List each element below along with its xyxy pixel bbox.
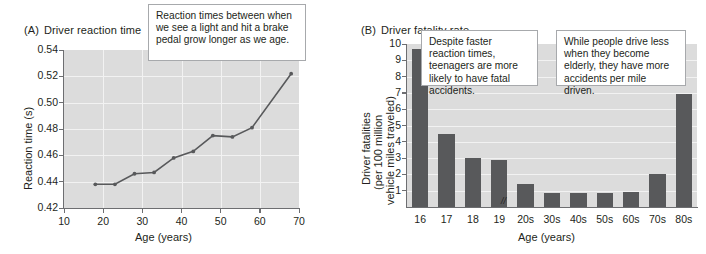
data-point-marker: [250, 126, 254, 130]
panel-a-driver-reaction-time: (A)Driver reaction time 0.420.440.460.48…: [0, 0, 353, 254]
panel-b-y-axis-title-line1: Driver fatalities: [360, 112, 372, 185]
data-point-marker: [133, 172, 137, 176]
panel-b-y-axis-title-line2: (per 100 million: [372, 115, 384, 190]
reaction-time-line: [95, 74, 291, 185]
panel-b-y-axis-title-line3: vehicle miles traveled): [384, 96, 396, 205]
y-tick-mark: [402, 76, 407, 77]
y-tick-mark: [402, 190, 407, 191]
panel-b-x-axis-title: Age (years): [518, 231, 575, 243]
bar: [676, 94, 692, 207]
y-tick-mark: [402, 109, 407, 110]
y-tick-label: 9: [367, 53, 401, 65]
figure-root: (A)Driver reaction time 0.420.440.460.48…: [0, 0, 706, 254]
bar: [465, 158, 481, 207]
y-tick-mark: [402, 141, 407, 142]
axis-break-icon: //: [501, 196, 506, 206]
panel-a-callout: Reaction times between when we see a lig…: [148, 4, 306, 61]
data-point-marker: [289, 72, 293, 76]
bar: [517, 184, 533, 207]
panel-b-tag: (B): [361, 24, 376, 36]
y-tick-mark: [402, 158, 407, 159]
bar: [570, 193, 586, 207]
y-tick-mark: [402, 44, 407, 45]
bar: [597, 193, 613, 207]
data-point-marker: [152, 171, 156, 175]
data-point-marker: [113, 182, 117, 186]
panel-b-callout-left: Despite faster reaction times, teenagers…: [421, 30, 538, 86]
y-tick-mark: [402, 60, 407, 61]
panel-b-callout-right: While people drive less when they become…: [556, 30, 686, 86]
data-point-marker: [93, 182, 97, 186]
panel-b-x-axis: [406, 207, 698, 208]
bar: [623, 192, 639, 207]
bar: [544, 193, 560, 207]
data-point-marker: [191, 149, 195, 153]
y-tick-mark: [402, 92, 407, 93]
y-tick-label: 10: [367, 37, 401, 49]
y-tick-label: 8: [367, 70, 401, 82]
bar: [438, 134, 454, 207]
x-tick-label: 80s: [666, 213, 702, 225]
data-point-marker: [231, 135, 235, 139]
y-tick-mark: [402, 174, 407, 175]
data-point-marker: [172, 156, 176, 160]
y-tick-mark: [402, 125, 407, 126]
bar: [649, 174, 665, 207]
panel-b-driver-fatality-rate: (B)Driver fatality rate 12345678910 1617…: [353, 0, 706, 254]
data-point-marker: [211, 134, 215, 138]
